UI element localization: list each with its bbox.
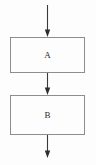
edge-a-to-b-arrowhead <box>45 88 50 96</box>
flowchart-canvas: A B <box>0 0 96 165</box>
node-a-label: A <box>44 50 51 60</box>
edge-entry-arrowhead <box>45 30 50 38</box>
edge-entry-arrow <box>45 5 50 37</box>
edge-exit-arrow <box>45 135 50 158</box>
node-a[interactable]: A <box>11 38 85 73</box>
node-b-label: B <box>44 110 50 120</box>
flowchart-diagram: A B <box>0 0 96 165</box>
node-b[interactable]: B <box>11 96 85 135</box>
edge-a-to-b-arrow <box>45 73 50 95</box>
edge-exit-arrowhead <box>45 151 50 159</box>
